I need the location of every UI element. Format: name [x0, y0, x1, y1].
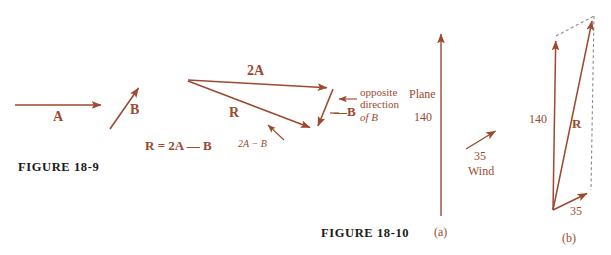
vector-minus-b-arrow	[318, 89, 333, 126]
annotation-line-1: opposite	[360, 86, 399, 98]
vector-a-label: A	[53, 110, 63, 125]
plane-magnitude-label: 140	[414, 111, 432, 124]
r-label-leader-line	[268, 125, 284, 140]
annotation-line-2: direction	[360, 98, 399, 110]
wind-vector-arrow	[466, 131, 496, 149]
dashed-construction-right	[591, 16, 594, 190]
vector-2a-arrow	[188, 80, 327, 88]
panel-b-resultant-label: R	[572, 117, 581, 131]
dashed-construction-top	[556, 16, 594, 36]
vector-minus-b-label: —B	[334, 105, 356, 119]
figure-18-9-caption: FIGURE 18-9	[18, 160, 99, 175]
wind-label: Wind	[468, 165, 494, 178]
panel-b-140-label: 140	[529, 113, 547, 126]
two-a-minus-b-label: 2A − B	[238, 139, 267, 150]
vector-diagram-canvas	[0, 0, 611, 255]
panel-a-label: (a)	[434, 226, 447, 239]
vector-2a-label: 2A	[247, 64, 264, 79]
wind-magnitude-label: 35	[474, 150, 486, 163]
panel-b-label: (b)	[562, 232, 576, 245]
annotation-line-3: of B	[360, 111, 399, 123]
plane-label: Plane	[409, 88, 436, 101]
panel-b-35-label: 35	[570, 205, 582, 218]
panel-b-140-arrow	[553, 41, 556, 210]
figure-18-10-caption: FIGURE 18-10	[321, 226, 409, 241]
vector-b-label: B	[130, 103, 139, 118]
vector-r-arrow	[188, 81, 310, 128]
vector-r-label: R	[229, 106, 239, 121]
resultant-equation: R = 2A — B	[145, 139, 212, 153]
opposite-direction-annotation: opposite direction of B	[360, 86, 399, 123]
figure-page: A B 2A —B R 2A − B R = 2A — B opposite d…	[0, 0, 611, 255]
